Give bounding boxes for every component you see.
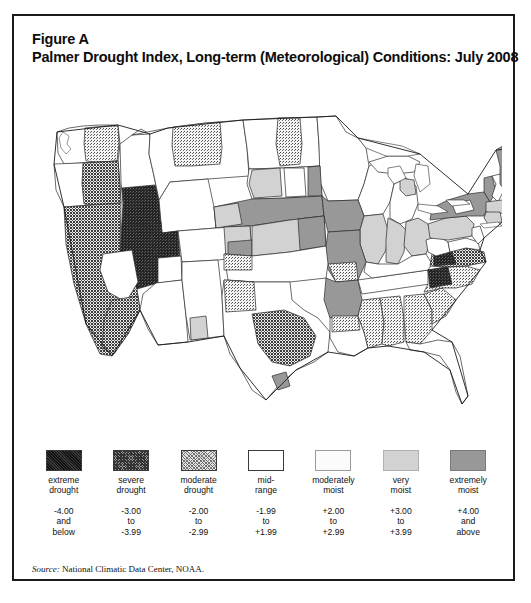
region-connecticut xyxy=(484,212,502,224)
legend-range-extreme-drought: -4.00 and below xyxy=(52,506,74,538)
source-prefix: Source: xyxy=(32,564,60,574)
legend-item-mid-range: mid- range -1.99 to +1.99 xyxy=(232,450,299,538)
legend-label-very-moist: very moist xyxy=(391,475,412,496)
region-alabama xyxy=(380,296,404,346)
region-minnesota xyxy=(317,116,369,201)
legend-label-moderate-drought: moderate drought xyxy=(180,475,216,496)
legend-item-very-moist: very moist +3.00 to +3.99 xyxy=(367,450,434,538)
legend-swatch-moderate-drought xyxy=(181,450,217,471)
legend-label-extreme-drought: extreme drought xyxy=(48,475,79,496)
legend-item-severe-drought: severe drought -3.00 to -3.99 xyxy=(97,450,164,538)
region-nm-south xyxy=(190,316,208,340)
title-block: Figure A Palmer Drought Index, Long-term… xyxy=(32,31,492,66)
legend-label-mid-range: mid- range xyxy=(255,475,277,496)
legend-label-moderately-moist: moderately moist xyxy=(312,475,355,496)
legend-range-mid-range: -1.99 to +1.99 xyxy=(255,506,277,538)
legend-label-extremely-moist: extremely moist xyxy=(450,475,487,496)
region-utah-south xyxy=(158,256,182,283)
legend-swatch-extremely-moist xyxy=(450,450,486,471)
us-map-svg xyxy=(28,104,502,434)
figure-label: Figure A xyxy=(32,31,492,49)
legend-range-moderately-moist: +2.00 to +2.99 xyxy=(323,506,345,538)
region-arkansas xyxy=(324,278,362,318)
page-title: Palmer Drought Index, Long-term (Meteoro… xyxy=(32,49,492,67)
region-sd-east xyxy=(308,166,322,196)
legend: extreme drought -4.00 and below severe d… xyxy=(30,450,502,548)
region-sd-mid xyxy=(284,168,306,197)
region-washington-central xyxy=(84,126,119,162)
drought-map xyxy=(28,104,502,434)
region-montana-north xyxy=(172,122,222,166)
legend-swatch-mid-range xyxy=(248,450,284,471)
legend-item-extremely-moist: extremely moist +4.00 and above xyxy=(435,450,502,538)
region-kansas-east xyxy=(298,216,326,250)
region-nebraska-west xyxy=(214,203,242,228)
legend-swatch-extreme-drought xyxy=(46,450,82,471)
legend-range-moderate-drought: -2.00 to -2.99 xyxy=(189,506,209,538)
legend-swatch-moderately-moist xyxy=(315,450,351,471)
source-text: National Climatic Data Center, NOAA. xyxy=(62,564,204,574)
region-iowa xyxy=(322,196,364,232)
region-nd-east xyxy=(276,118,302,166)
region-louisiana-north xyxy=(332,316,360,332)
legend-label-severe-drought: severe drought xyxy=(117,475,146,496)
legend-range-severe-drought: -3.00 to -3.99 xyxy=(121,506,141,538)
legend-swatch-very-moist xyxy=(383,450,419,471)
region-wyoming xyxy=(159,179,216,233)
region-north-carolina-west xyxy=(428,267,452,288)
region-texas-panhandle xyxy=(224,280,256,312)
legend-range-extremely-moist: +4.00 and above xyxy=(457,506,480,538)
region-arizona xyxy=(140,280,188,345)
legend-range-very-moist: +3.00 to +3.99 xyxy=(390,506,412,538)
region-indiana xyxy=(386,218,406,264)
region-sd-west xyxy=(249,168,282,198)
figure-frame: Figure A Palmer Drought Index, Long-term… xyxy=(12,14,515,581)
region-missouri-south xyxy=(328,262,358,282)
source-line: Source: National Climatic Data Center, N… xyxy=(32,564,204,574)
region-oklahoma-panhandle xyxy=(224,254,252,270)
legend-item-extreme-drought: extreme drought -4.00 and below xyxy=(30,450,97,538)
legend-item-moderately-moist: moderately moist +2.00 to +2.99 xyxy=(300,450,367,538)
legend-swatch-severe-drought xyxy=(113,450,149,471)
region-oregon-east xyxy=(82,161,121,205)
legend-item-moderate-drought: moderate drought -2.00 to -2.99 xyxy=(165,450,232,538)
